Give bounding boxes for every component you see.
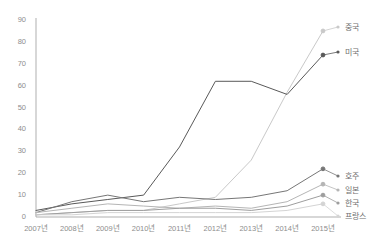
legend-label-3: 일본 [345, 186, 359, 195]
series-line-2 [36, 169, 323, 213]
legend-connector-1 [323, 52, 338, 55]
series-line-4 [36, 195, 323, 215]
y-tick-80: 80 [4, 38, 26, 46]
legend-connector-0 [323, 27, 338, 31]
y-tick-50: 50 [4, 104, 26, 112]
y-tick-60: 60 [4, 82, 26, 90]
legend-connector-3 [323, 184, 338, 190]
line-chart: 0102030405060708090 2007년2008년2009년2010년… [0, 0, 379, 250]
x-tick-2: 2009년 [88, 224, 128, 233]
y-tick-10: 10 [4, 191, 26, 199]
x-tick-8: 2015년 [303, 224, 343, 233]
x-tick-5: 2012년 [195, 224, 235, 233]
legend-marker-3 [336, 188, 339, 191]
chart-plot-area [0, 0, 379, 250]
legend-connector-2 [323, 169, 338, 176]
x-tick-6: 2013년 [231, 224, 271, 233]
series-line-0 [36, 31, 323, 215]
legend-marker-4 [336, 201, 339, 204]
legend-marker-0 [336, 25, 339, 28]
legend-label-5: 프랑스 [345, 212, 366, 221]
y-tick-40: 40 [4, 125, 26, 133]
y-tick-70: 70 [4, 60, 26, 68]
legend-marker-2 [336, 174, 339, 177]
x-tick-7: 2014년 [267, 224, 307, 233]
y-tick-90: 90 [4, 16, 26, 24]
legend-connector-4 [323, 195, 338, 203]
legend-label-4: 한국 [345, 199, 359, 208]
y-tick-20: 20 [4, 169, 26, 177]
y-tick-0: 0 [4, 213, 26, 221]
legend-label-0: 중국 [345, 23, 359, 32]
x-tick-4: 2011년 [160, 224, 200, 233]
x-tick-3: 2010년 [124, 224, 164, 233]
series-line-5 [36, 204, 323, 215]
legend-connector-5 [323, 204, 338, 216]
x-tick-1: 2008년 [52, 224, 92, 233]
y-tick-30: 30 [4, 147, 26, 155]
legend-label-1: 미국 [345, 48, 359, 57]
series-line-1 [36, 55, 323, 210]
x-tick-0: 2007년 [16, 224, 56, 233]
legend-marker-1 [336, 50, 339, 53]
legend-label-2: 호주 [345, 172, 359, 181]
legend-marker-5 [336, 214, 339, 217]
